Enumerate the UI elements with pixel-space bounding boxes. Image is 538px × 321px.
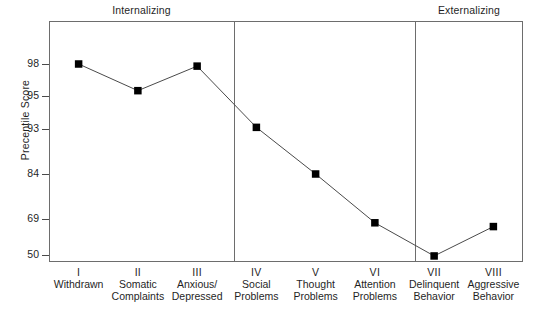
data-point-marker <box>134 87 142 95</box>
x-axis-label-iii: IIIAnxious/Depressed <box>168 266 227 303</box>
x-label-name: Delinquent <box>405 278 464 290</box>
x-axis-label-vii: VIIDelinquentBehavior <box>405 266 464 303</box>
x-label-name: Social <box>227 278 286 290</box>
x-axis-label-vi: VIAttentionProblems <box>345 266 404 303</box>
x-label-roman: II <box>108 266 167 278</box>
x-label-roman: VIII <box>464 266 523 278</box>
x-label-name: Anxious/ <box>168 278 227 290</box>
data-point-marker <box>75 60 83 68</box>
x-axis-label-i: IWithdrawn <box>49 266 108 290</box>
x-label-name-line2: Problems <box>227 290 286 302</box>
x-label-name-line2: Problems <box>286 290 345 302</box>
x-label-roman: VII <box>405 266 464 278</box>
x-label-roman: III <box>168 266 227 278</box>
x-label-name-line2: Behavior <box>405 290 464 302</box>
x-label-name-line2: Problems <box>345 290 404 302</box>
data-point-marker <box>253 124 261 132</box>
series-markers <box>75 60 497 259</box>
x-label-roman: I <box>49 266 108 278</box>
data-point-marker <box>193 62 201 70</box>
x-label-name: Thought <box>286 278 345 290</box>
x-label-name: Aggressive <box>464 278 523 290</box>
x-axis-label-v: VThoughtProblems <box>286 266 345 303</box>
chart-figure: Internalizing Externalizing Precentile S… <box>0 0 538 321</box>
x-label-name: Somatic <box>108 278 167 290</box>
x-label-name: Attention <box>345 278 404 290</box>
x-label-roman: V <box>286 266 345 278</box>
data-point-marker <box>430 252 438 260</box>
x-axis-label-iv: IVSocialProblems <box>227 266 286 303</box>
x-label-roman: IV <box>227 266 286 278</box>
data-point-marker <box>371 219 379 227</box>
x-axis-label-ii: IISomaticComplaints <box>108 266 167 303</box>
x-label-name-line2: Behavior <box>464 290 523 302</box>
data-point-marker <box>490 223 498 231</box>
data-point-marker <box>312 170 320 178</box>
x-label-name-line2: Depressed <box>168 290 227 302</box>
x-axis-label-viii: VIIIAggressiveBehavior <box>464 266 523 303</box>
x-label-roman: VI <box>345 266 404 278</box>
x-label-name-line2: Complaints <box>108 290 167 302</box>
x-label-name: Withdrawn <box>49 278 108 290</box>
